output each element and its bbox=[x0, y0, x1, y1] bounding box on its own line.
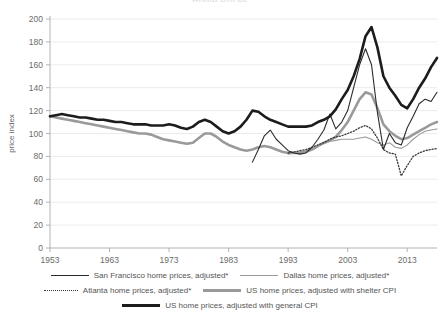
series-line bbox=[50, 27, 437, 133]
y-tick-label: 0 bbox=[38, 243, 43, 253]
legend-row-1: San Francisco home prices, adjusted* Dal… bbox=[0, 268, 440, 283]
legend-item-dallas[interactable]: Dallas home prices, adjusted* bbox=[240, 271, 389, 280]
legend-swatch-us-shelter-cpi-icon bbox=[203, 289, 241, 292]
y-tick-label: 60 bbox=[34, 174, 44, 184]
legend-item-us-shelter-cpi[interactable]: US home prices, adjusted with shelter CP… bbox=[203, 286, 396, 295]
legend-label-us-general-cpi: US home prices, adjusted with general CP… bbox=[165, 301, 318, 310]
legend-row-2: Atlanta home prices, adjusted* US home p… bbox=[0, 283, 440, 298]
y-tick-label: 40 bbox=[34, 197, 44, 207]
line-chart-plot: 0204060801001201401601802001953196319731… bbox=[0, 0, 440, 270]
x-tick-label: 2003 bbox=[338, 255, 357, 265]
y-tick-label: 120 bbox=[29, 106, 43, 116]
y-tick-label: 180 bbox=[29, 37, 43, 47]
x-tick-label: 1973 bbox=[160, 255, 179, 265]
legend-swatch-us-general-cpi-icon bbox=[122, 304, 160, 307]
legend-row-3: US home prices, adjusted with general CP… bbox=[0, 298, 440, 313]
legend-swatch-san-francisco-icon bbox=[51, 275, 89, 276]
legend-label-san-francisco: San Francisco home prices, adjusted* bbox=[94, 271, 229, 280]
legend-swatch-atlanta-icon bbox=[44, 290, 78, 291]
chart-legend: San Francisco home prices, adjusted* Dal… bbox=[0, 268, 440, 313]
x-tick-label: 1983 bbox=[219, 255, 238, 265]
legend-swatch-dallas-icon bbox=[240, 275, 278, 276]
chart-container: Home Prices 0204060801001201401601802001… bbox=[0, 0, 440, 320]
y-tick-label: 160 bbox=[29, 60, 43, 70]
y-tick-label: 20 bbox=[34, 220, 44, 230]
y-tick-label: 200 bbox=[29, 14, 43, 24]
y-tick-label: 80 bbox=[34, 151, 44, 161]
legend-label-dallas: Dallas home prices, adjusted* bbox=[283, 271, 389, 280]
x-tick-label: 1953 bbox=[41, 255, 60, 265]
x-tick-label: 1993 bbox=[279, 255, 298, 265]
y-axis-title: price index bbox=[7, 114, 16, 153]
legend-label-us-shelter-cpi: US home prices, adjusted with shelter CP… bbox=[246, 286, 396, 295]
legend-item-san-francisco[interactable]: San Francisco home prices, adjusted* bbox=[51, 271, 229, 280]
x-tick-label: 2013 bbox=[398, 255, 417, 265]
legend-item-atlanta[interactable]: Atlanta home prices, adjusted* bbox=[44, 286, 192, 295]
y-tick-label: 140 bbox=[29, 83, 43, 93]
y-tick-label: 100 bbox=[29, 129, 43, 139]
legend-label-atlanta: Atlanta home prices, adjusted* bbox=[83, 286, 192, 295]
x-tick-label: 1963 bbox=[100, 255, 119, 265]
legend-item-us-general-cpi[interactable]: US home prices, adjusted with general CP… bbox=[122, 301, 318, 310]
